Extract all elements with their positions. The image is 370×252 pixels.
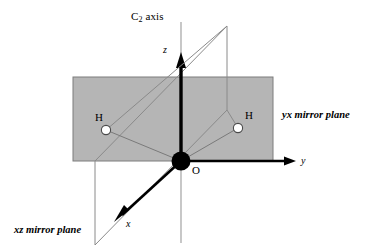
hydrogen-atom-left-label: H xyxy=(95,112,103,123)
y-axis-arrowhead xyxy=(284,157,296,166)
diagram-canvas xyxy=(0,0,370,252)
c2-axis-label-rest: axis xyxy=(143,10,164,22)
c2-axis-label: C2 axis xyxy=(131,11,164,24)
oxygen-atom xyxy=(172,152,191,171)
molecular-symmetry-diagram: C2 axis z y x O H H yx mirror plane xz m… xyxy=(0,0,370,252)
yx-mirror-plane-shape xyxy=(73,77,273,161)
x-axis-label: x xyxy=(126,219,130,229)
x-axis-line xyxy=(122,161,181,215)
hydrogen-atom-right-label: H xyxy=(245,110,253,121)
xz-mirror-plane-label: xz mirror plane xyxy=(14,225,81,236)
yx-mirror-plane-label: yx mirror plane xyxy=(282,110,350,121)
hydrogen-atom-left xyxy=(101,125,110,134)
hydrogen-atom-right xyxy=(233,123,242,132)
oxygen-atom-label: O xyxy=(192,165,200,176)
y-axis-label: y xyxy=(301,156,305,166)
z-axis-label: z xyxy=(163,45,167,55)
